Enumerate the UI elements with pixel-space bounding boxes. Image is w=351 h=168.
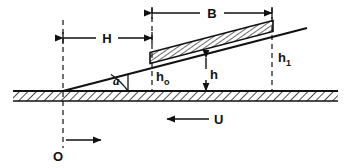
dimension-H-label: H	[102, 31, 111, 46]
label-alpha: a	[113, 73, 120, 88]
label-h0: h o	[156, 69, 170, 87]
label-h1: h 1	[278, 50, 291, 68]
origin-label: O	[53, 149, 63, 164]
velocity-U-label: U	[214, 112, 223, 127]
label-h0-subscript: o	[164, 77, 170, 87]
inclined-reference-line	[63, 28, 307, 91]
slider-bearing-diagram: B H h h o h 1 a U	[0, 0, 351, 168]
velocity-U: U	[167, 112, 223, 127]
dimension-h: h	[206, 58, 218, 91]
ground-hatching	[13, 92, 338, 101]
ground-surface	[13, 91, 338, 101]
origin-marker: O	[53, 140, 101, 164]
dimension-H: H	[63, 31, 152, 46]
dimension-B: B	[152, 6, 272, 21]
dimension-h-label: h	[210, 67, 218, 82]
label-h0-base: h	[156, 69, 164, 84]
dimension-B-label: B	[207, 6, 216, 21]
label-h1-base: h	[278, 50, 286, 65]
figure-root: B H h h o h 1 a U	[0, 0, 351, 168]
incline-line	[63, 28, 307, 91]
label-h1-subscript: 1	[286, 58, 291, 68]
